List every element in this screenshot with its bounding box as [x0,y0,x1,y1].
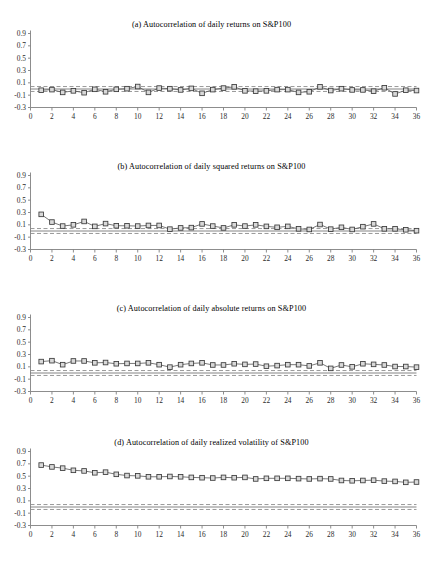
data-point-marker [93,361,98,366]
x-tick-label: 10 [134,112,142,121]
data-point-marker [82,359,87,364]
data-point-marker [71,89,76,94]
x-tick-label: 34 [391,254,399,263]
x-tick-label: 34 [391,112,399,121]
data-point-marker [414,88,419,93]
data-point-marker [253,89,258,94]
x-tick-label: 32 [370,530,378,539]
x-tick-label: 30 [348,254,356,263]
data-point-marker [286,476,291,481]
x-tick-label: 8 [114,254,118,263]
x-tick-label: 4 [72,112,76,121]
data-point-marker [135,84,140,89]
data-point-marker [371,89,376,94]
data-point-marker [210,224,215,229]
y-tick-label: 0.7 [17,459,27,468]
y-tick-label: 0.9 [17,313,27,322]
data-point-marker [39,359,44,364]
data-point-marker [125,86,130,91]
y-tick-label: -0.1 [14,509,26,518]
data-point-marker [328,88,333,93]
data-point-marker [60,224,65,229]
data-point-marker [189,225,194,230]
data-point-marker [382,479,387,484]
data-point-marker [178,226,183,231]
data-point-marker [50,465,55,470]
data-point-marker [50,220,55,225]
data-point-marker [264,224,269,229]
x-tick-label: 20 [241,254,249,263]
x-tick-label: 14 [177,396,185,405]
data-point-marker [286,362,291,367]
data-point-marker [253,223,258,228]
data-point-marker [264,476,269,481]
data-point-marker [350,478,355,483]
x-tick-label: 2 [50,112,54,121]
x-tick-label: 18 [220,112,228,121]
x-tick-label: 6 [93,530,97,539]
y-tick-label: 0.1 [17,78,27,87]
x-tick-label: 18 [220,396,228,405]
data-point-marker [200,361,205,366]
data-point-marker [135,474,140,479]
y-tick-label: 0.7 [17,183,27,192]
x-tick-label: 2 [50,254,54,263]
data-point-marker [339,86,344,91]
data-point-marker [39,88,44,93]
data-point-marker [114,87,119,92]
x-tick-label: 8 [114,530,118,539]
data-point-marker [82,90,87,95]
x-tick-label: 32 [370,254,378,263]
x-tick-label: 14 [177,112,185,121]
x-tick-label: 10 [134,530,142,539]
data-point-marker [232,361,237,366]
y-tick-label: 0.5 [17,338,27,347]
x-tick-label: 16 [198,396,206,405]
data-point-marker [210,87,215,92]
acf-figure: (a) Autocorrelation of daily returns on … [0,0,423,568]
data-point-marker [146,223,151,228]
y-tick-label: 0.3 [17,66,27,75]
data-point-marker [168,227,173,232]
x-tick-label: 12 [155,254,163,263]
data-point-marker [93,470,98,475]
data-point-marker [135,224,140,229]
data-point-marker [178,474,183,479]
data-point-marker [189,361,194,366]
data-point-marker [382,363,387,368]
data-point-marker [221,475,226,480]
data-point-marker [200,222,205,227]
y-tick-label: -0.3 [14,387,26,396]
data-point-marker [339,363,344,368]
data-point-marker [39,212,44,217]
data-point-marker [371,478,376,483]
x-tick-label: 36 [413,254,421,263]
y-tick-label: 0.3 [17,484,27,493]
data-point-marker [39,463,44,468]
y-tick-label: 0.1 [17,362,27,371]
x-tick-label: 6 [93,112,97,121]
data-point-marker [307,227,312,232]
y-tick-label: -0.3 [14,103,26,112]
data-point-marker [296,90,301,95]
data-point-marker [71,359,76,364]
data-point-marker [361,88,366,93]
x-tick-label: 22 [263,396,271,405]
y-tick-label: 0.3 [17,350,27,359]
data-point-marker [296,362,301,367]
y-tick-label: 0.7 [17,325,27,334]
data-point-marker [125,223,130,228]
y-tick-label: 0.3 [17,208,27,217]
data-point-marker [253,477,258,482]
x-tick-label: 36 [413,112,421,121]
data-point-marker [146,474,151,479]
data-point-marker [114,472,119,477]
data-point-marker [71,468,76,473]
data-point-marker [60,90,65,95]
data-point-marker [82,219,87,224]
data-point-marker [350,365,355,370]
data-point-marker [60,362,65,367]
data-point-marker [189,475,194,480]
data-point-marker [200,91,205,96]
x-tick-label: 30 [348,396,356,405]
